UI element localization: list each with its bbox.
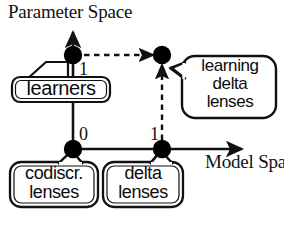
callout-label-codiscr-lenses: codiscr. lenses bbox=[11, 164, 97, 202]
callout-label-learning-delta-lenses: learning delta lenses bbox=[184, 57, 276, 111]
callout-label-learners: learners bbox=[14, 78, 108, 99]
tick-label-x-1: 1 bbox=[150, 124, 159, 145]
axis-title-parameter-space: Parameter Space bbox=[8, 2, 132, 22]
lens-hierarchy-diagram bbox=[0, 0, 284, 240]
axis-title-model-spaces: Model Spaces bbox=[205, 152, 277, 172]
node-learning-delta-lenses[interactable] bbox=[153, 46, 171, 64]
diagram-canvas: Parameter Space Model Spaces 1 0 1 learn… bbox=[0, 0, 284, 240]
tick-label-origin-0: 0 bbox=[79, 124, 88, 145]
callout-label-delta-lenses: delta lenses bbox=[104, 164, 182, 202]
